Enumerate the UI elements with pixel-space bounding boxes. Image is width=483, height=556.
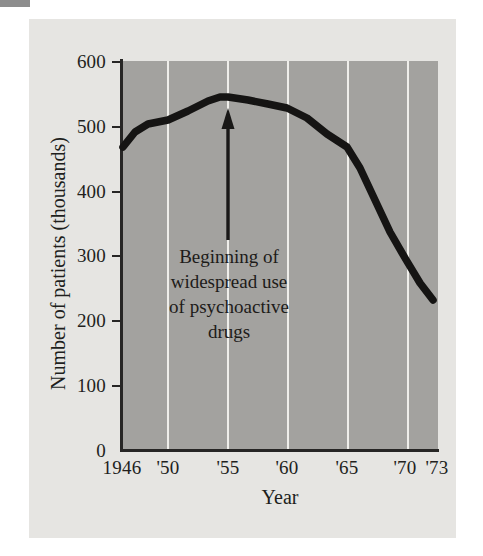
arrow-head	[222, 108, 235, 129]
x-axis-title: Year	[122, 486, 438, 509]
annotation-line-2: widespread use	[138, 269, 320, 294]
annotation-line-3: of psychoactive	[138, 294, 320, 319]
annotation-line-1: Beginning of	[138, 244, 320, 269]
chart-annotation-text: Beginning of widespread use of psychoact…	[138, 244, 320, 344]
line-chart-figure: 600 500 400 300 200 100 0 1946 '50 '55 '…	[0, 0, 483, 556]
annotation-line-4: drugs	[138, 319, 320, 344]
y-axis-title: Number of patients (thousands)	[47, 99, 70, 429]
